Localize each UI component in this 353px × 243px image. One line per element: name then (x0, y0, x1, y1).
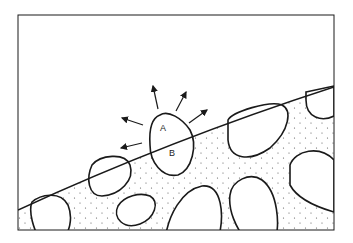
arrow-icon (122, 118, 143, 125)
label-b: B (169, 148, 175, 158)
arrow-icon (176, 92, 186, 111)
label-a: A (160, 123, 166, 133)
arrow-icon (153, 86, 158, 109)
arrow-icon (121, 143, 142, 148)
arrow-icon (189, 110, 207, 123)
diagram-canvas: A B (0, 0, 353, 243)
